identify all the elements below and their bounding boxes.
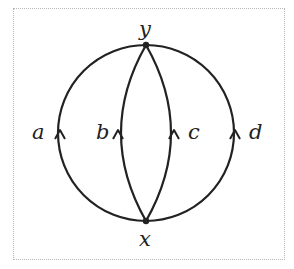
edge-c xyxy=(146,45,171,221)
vertex-label-y: y xyxy=(138,17,152,41)
vertex-label-x: x xyxy=(139,227,151,251)
vertex-y xyxy=(143,42,149,48)
edge-b xyxy=(121,45,146,221)
graph-diagram: y x a b c d xyxy=(0,0,294,269)
vertex-x xyxy=(143,218,149,224)
edge-label-c: c xyxy=(188,120,200,144)
edge-label-d: d xyxy=(249,120,262,144)
edge-label-b: b xyxy=(96,120,109,144)
arrow-a-icon xyxy=(55,130,65,139)
edge-label-a: a xyxy=(32,120,45,144)
